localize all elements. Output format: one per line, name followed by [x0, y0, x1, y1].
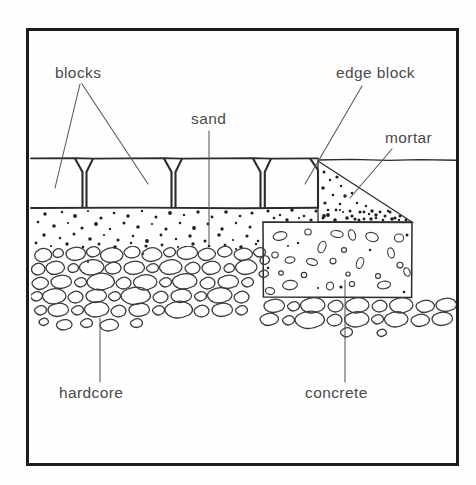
diagram-canvas: blocks edge block sand mortar hardcore c…: [0, 0, 476, 485]
paving-block-2: [164, 159, 182, 208]
leader-edge-block: [305, 86, 362, 184]
paving-block-3: [253, 159, 271, 208]
concrete-block: [263, 222, 412, 298]
hardcore-layer: [31, 246, 457, 337]
paving-block-1: [75, 159, 93, 208]
label-concrete: concrete: [305, 384, 368, 401]
sand-layer: [35, 210, 260, 249]
edge-block: [310, 158, 318, 208]
blocks-bottom-line: [31, 208, 318, 209]
leader-blocks-right: [82, 84, 148, 184]
label-edge-block: edge block: [336, 64, 415, 81]
label-sand: sand: [191, 110, 226, 127]
label-mortar: mortar: [385, 129, 432, 146]
leader-lines: [55, 84, 392, 382]
leader-blocks-left: [55, 84, 80, 188]
ground-line: [318, 159, 456, 160]
label-blocks: blocks: [55, 64, 101, 81]
label-hardcore: hardcore: [59, 384, 123, 401]
leader-mortar: [350, 149, 392, 198]
